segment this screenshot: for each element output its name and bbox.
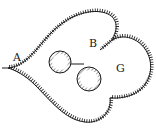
hole-lower [77,67,101,91]
label-g: G [116,63,125,74]
label-a: A [13,52,21,63]
slit-b [100,40,112,50]
domain-diagram [0,0,156,136]
label-b: B [89,38,97,49]
hole-upper [49,51,84,73]
outer-boundary [2,10,152,122]
